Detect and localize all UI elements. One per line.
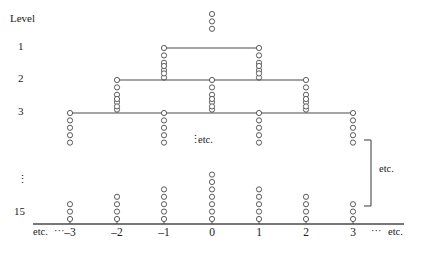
level-label-2: 2: [18, 72, 24, 84]
level-15-stack-dot: [161, 194, 166, 199]
middle-etc-label: etc.: [198, 134, 213, 145]
level-2-stack-dot: [114, 85, 119, 90]
upper-stub-dot: [114, 96, 119, 101]
diagram-svg: [0, 0, 423, 259]
vertical-ellipsis-icon: ⋮: [17, 173, 28, 186]
level-15-stack-dot: [209, 172, 214, 177]
axis-right-dots-icon: ···: [371, 225, 382, 236]
level-15-stack-dot: [209, 187, 214, 192]
level-3-stack-dot: [256, 125, 261, 130]
level-heading: Level: [10, 12, 35, 24]
axis-right-etc-label: etc.: [388, 226, 403, 237]
level-3-stack-dot: [350, 110, 355, 115]
level-15-stack-dot: [161, 209, 166, 214]
level-15-stack-dot: [303, 216, 308, 221]
level-2-stack-dot: [114, 77, 119, 82]
upper-stub-dot: [256, 63, 261, 68]
level-2-stack-dot: [303, 77, 308, 82]
upper-stub-dot: [209, 11, 214, 16]
level-3-stack-dot: [67, 125, 72, 130]
level-15-stack-dot: [350, 216, 355, 221]
level-label-15: 15: [14, 205, 25, 217]
level-2-stack-dot: [209, 77, 214, 82]
tick-label--2: –2: [108, 226, 126, 238]
level-1-stack-dot: [161, 53, 166, 58]
upper-stub-dot: [161, 71, 166, 76]
level-1-stack-dot: [256, 45, 261, 50]
upper-stub-dot: [209, 19, 214, 24]
level-15-stack-dot: [256, 216, 261, 221]
level-3-stack-dot: [67, 110, 72, 115]
level-15-stack-dot: [114, 194, 119, 199]
level-3-stack-dot: [67, 118, 72, 123]
level-15-stack-dot: [114, 202, 119, 207]
level-15-stack-dot: [67, 209, 72, 214]
upper-stub-dot: [209, 26, 214, 31]
level-15-stack-dot: [161, 187, 166, 192]
level-15-stack-dot: [67, 202, 72, 207]
level-3-stack-dot: [161, 118, 166, 123]
level-15-stack-dot: [161, 216, 166, 221]
upper-stub-dot: [303, 96, 308, 101]
level-3-stack-dot: [161, 125, 166, 130]
level-3-stack-dot: [67, 133, 72, 138]
level-15-stack-dot: [209, 194, 214, 199]
level-15-stack-dot: [350, 209, 355, 214]
level-3-stack-dot: [161, 133, 166, 138]
level-3-stack-dot: [350, 118, 355, 123]
level-15-stack-dot: [350, 202, 355, 207]
level-label-1: 1: [18, 40, 24, 52]
level-15-stack-dot: [303, 194, 308, 199]
figure-canvas: Level 1 2 3 15 ⋮ ⋮ etc. etc. ··· ··· etc…: [0, 0, 423, 259]
level-2-stack-dot: [303, 85, 308, 90]
level-15-stack-dot: [161, 202, 166, 207]
level-15-stack-dot: [114, 209, 119, 214]
upper-stub-dot: [209, 104, 214, 109]
level-15-stack-dot: [209, 202, 214, 207]
level-15-stack-dot: [209, 179, 214, 184]
level-2-stack-dot: [209, 85, 214, 90]
level-15-stack-dot: [303, 202, 308, 207]
level-3-stack-dot: [256, 118, 261, 123]
level-15-stack-dot: [209, 209, 214, 214]
level-3-stack-dot: [161, 140, 166, 145]
axis-left-etc-label: etc.: [33, 226, 48, 237]
level-3-stack-dot: [256, 133, 261, 138]
level-15-stack-dot: [256, 194, 261, 199]
level-3-stack-dot: [350, 125, 355, 130]
level-3-stack-dot: [256, 110, 261, 115]
level-15-stack-dot: [256, 209, 261, 214]
upper-stub-dot: [114, 104, 119, 109]
tick-label--3: –3: [61, 226, 79, 238]
level-15-stack-dot: [256, 202, 261, 207]
tick-label-2: 2: [297, 226, 315, 238]
upper-stub-dot: [256, 71, 261, 76]
upper-stub-dot: [161, 63, 166, 68]
level-3-stack-dot: [350, 140, 355, 145]
level-3-stack-dot: [161, 110, 166, 115]
level-15-stack-dot: [114, 216, 119, 221]
tick-label--1: –1: [155, 226, 173, 238]
tick-label-0: 0: [203, 226, 221, 238]
tick-label-3: 3: [344, 226, 362, 238]
level-15-stack-dot: [209, 216, 214, 221]
level-1-stack-dot: [161, 45, 166, 50]
level-3-stack-dot: [350, 133, 355, 138]
upper-stub-dot: [209, 96, 214, 101]
level-15-stack-dot: [67, 216, 72, 221]
tick-label-1: 1: [250, 226, 268, 238]
level-label-3: 3: [18, 105, 24, 117]
level-1-stack-dot: [256, 53, 261, 58]
level-3-stack-dot: [67, 140, 72, 145]
brace-etc-label: etc.: [379, 163, 394, 174]
level-15-stack-dot: [303, 209, 308, 214]
upper-stub-dot: [303, 104, 308, 109]
level-15-stack-dot: [256, 187, 261, 192]
level-3-stack-dot: [256, 140, 261, 145]
